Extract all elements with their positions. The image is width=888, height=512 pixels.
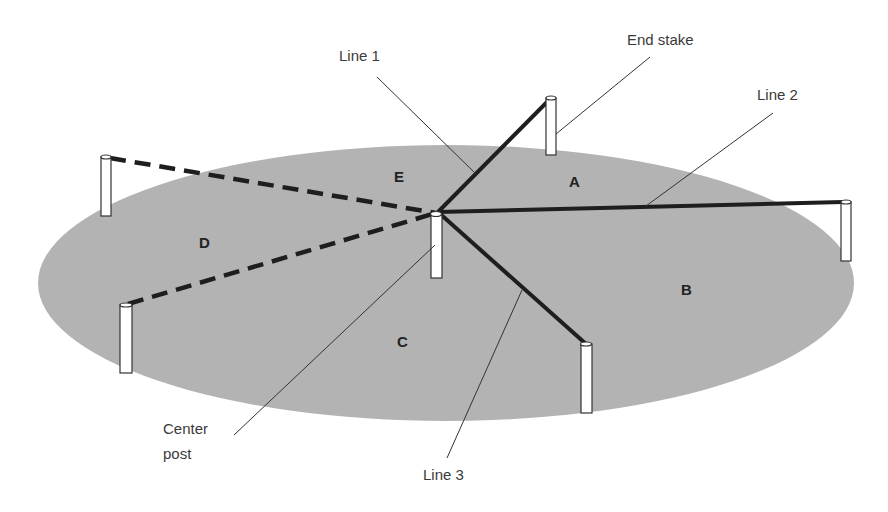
ground-plot bbox=[38, 145, 854, 421]
region-c: C bbox=[397, 333, 408, 350]
leader-end-stake bbox=[556, 57, 650, 134]
label-end-stake: End stake bbox=[627, 31, 694, 49]
end-stake-upper-left bbox=[101, 155, 111, 216]
label-center-post-line2: post bbox=[163, 445, 191, 463]
end-stake-line2 bbox=[841, 200, 851, 261]
end-stake-lower-left bbox=[120, 303, 132, 373]
label-line-1: Line 1 bbox=[339, 47, 380, 65]
plot-diagram bbox=[0, 0, 888, 512]
region-d: D bbox=[199, 234, 210, 251]
region-e: E bbox=[394, 168, 404, 185]
label-line-3: Line 3 bbox=[423, 466, 464, 484]
end-stake-line3 bbox=[581, 342, 593, 413]
region-a: A bbox=[569, 173, 580, 190]
end-stake-line1 bbox=[546, 96, 556, 155]
region-b: B bbox=[681, 281, 692, 298]
label-line-2: Line 2 bbox=[757, 86, 798, 104]
label-center-post-line1: Center bbox=[163, 420, 208, 438]
center-post bbox=[431, 212, 443, 279]
